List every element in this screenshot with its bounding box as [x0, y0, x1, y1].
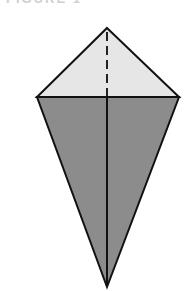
kite-fold-diagram [0, 0, 195, 291]
